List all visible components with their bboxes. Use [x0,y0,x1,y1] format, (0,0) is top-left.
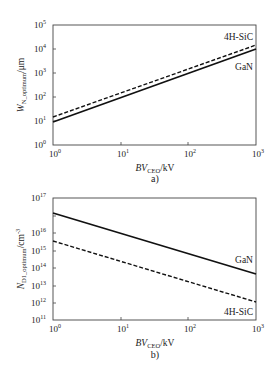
svg-text:1015: 1015 [31,245,46,256]
svg-text:103: 103 [252,148,264,159]
panel-a: 100 101 102 103 104 105 100 101 102 103 … [16,19,264,185]
svg-text:102: 102 [184,148,196,159]
svg-text:100: 100 [49,148,61,159]
series-gan-b [53,213,256,274]
y-tick-marks-b [53,216,188,320]
x-tick-labels-a: 100 101 102 103 [49,148,264,159]
svg-text:105: 105 [34,19,46,30]
y-tick-labels-a: 100 101 102 103 104 105 [34,19,46,150]
x-axis-label-b: BVCEO/kV [136,338,175,349]
series-4h-sic-a [53,45,256,117]
legend-4h-sic-b: 4H-SiC [224,307,253,317]
svg-text:104: 104 [34,43,46,54]
svg-text:1017: 1017 [31,192,46,203]
svg-text:100: 100 [34,139,46,150]
svg-text:102: 102 [184,323,196,334]
series-4h-sic-b [53,241,256,302]
series-gan-a [53,49,256,122]
svg-text:101: 101 [34,115,46,126]
svg-text:1013: 1013 [31,280,46,291]
svg-text:102: 102 [34,91,46,102]
svg-text:101: 101 [117,323,129,334]
figure: 100 101 102 103 104 105 100 101 102 103 … [0,0,279,370]
svg-text:103: 103 [34,67,46,78]
svg-text:1014: 1014 [31,262,46,273]
svg-text:100: 100 [49,323,61,334]
panel-b: 1011 1012 1013 1014 1015 1016 1017 100 1… [14,192,264,361]
svg-text:101: 101 [117,148,129,159]
svg-text:1012: 1012 [31,297,46,308]
caption-a: a) [151,173,159,185]
x-tick-labels-b: 100 101 102 103 [49,323,264,334]
legend-gan-a: GaN [235,62,253,72]
plot-frame-b [53,198,256,320]
y-axis-label-a: WN_optimum/μm [16,57,27,112]
legend-gan-b: GaN [235,255,253,265]
y-axis-label-b: ND1_optimum/cm-3 [14,229,27,291]
caption-b: b) [151,349,159,361]
legend-4h-sic-a: 4H-SiC [224,32,253,42]
y-tick-labels-b: 1011 1012 1013 1014 1015 1016 1017 [31,192,46,325]
svg-text:1011: 1011 [31,314,46,325]
svg-text:1016: 1016 [31,227,46,238]
svg-text:103: 103 [252,323,264,334]
